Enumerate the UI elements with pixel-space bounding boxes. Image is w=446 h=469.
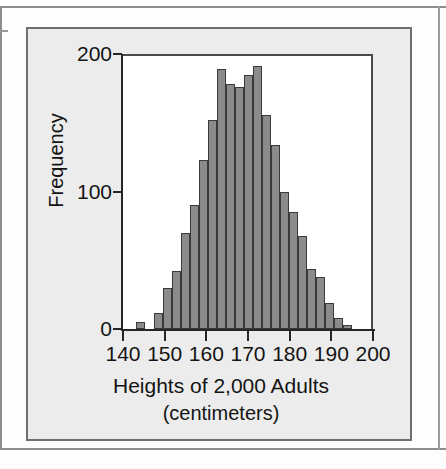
- page-rule-bottom: [0, 448, 446, 450]
- x-axis-tick: [289, 331, 291, 341]
- page-rule-left: [0, 6, 2, 450]
- x-axis-tick-label: 160: [183, 342, 229, 366]
- histogram-bar: [172, 271, 181, 329]
- histogram-bar: [334, 318, 343, 329]
- histogram-bar: [190, 205, 199, 329]
- y-axis-tick-label: 200: [58, 43, 112, 64]
- x-axis-units: (centimeters): [28, 402, 414, 425]
- x-axis-tick-label: 140: [100, 342, 146, 366]
- x-axis-tick-label: 170: [225, 342, 271, 366]
- histogram-bars: [123, 54, 373, 329]
- page-rule-right: [438, 6, 440, 450]
- x-axis-tick: [122, 331, 124, 341]
- page-rule-left-stub: [0, 30, 8, 32]
- x-axis-tick: [247, 331, 249, 341]
- histogram-bar: [289, 212, 298, 329]
- y-axis-tick: [113, 191, 122, 193]
- y-axis-title: Frequency: [45, 71, 68, 251]
- histogram-bar: [307, 269, 316, 330]
- y-axis-tick-label: 0: [58, 318, 112, 339]
- histogram-bar: [163, 288, 172, 329]
- histogram-bar: [262, 115, 271, 330]
- y-axis-tick: [113, 328, 122, 330]
- histogram-bar: [343, 325, 352, 329]
- page-frame: 0100200 Frequency 140150160170180190200 …: [0, 0, 446, 469]
- x-axis-tick: [164, 331, 166, 341]
- y-axis-tick: [113, 53, 122, 55]
- page-rule-top: [0, 6, 446, 8]
- histogram-bar: [136, 322, 145, 329]
- x-axis-tick: [372, 331, 374, 341]
- histogram-bar: [298, 236, 307, 330]
- histogram-bar: [217, 69, 226, 329]
- histogram-bar: [199, 160, 208, 329]
- histogram-bar: [244, 75, 253, 329]
- histogram-bar: [226, 84, 235, 329]
- histogram-bar: [271, 145, 280, 329]
- x-axis-tick: [205, 331, 207, 341]
- histogram-bar: [316, 277, 325, 329]
- histogram-bar: [280, 192, 289, 330]
- histogram-bar: [235, 87, 244, 329]
- histogram-bar: [181, 233, 190, 329]
- x-axis-tick-label: 150: [142, 342, 188, 366]
- x-axis-tick-label: 180: [267, 342, 313, 366]
- histogram-bar: [154, 313, 163, 330]
- histogram-bar: [208, 120, 217, 329]
- x-axis-tick-label: 200: [350, 342, 396, 366]
- x-axis-tick: [330, 331, 332, 341]
- x-axis-title: Heights of 2,000 Adults: [28, 374, 414, 398]
- figure-card: 0100200 Frequency 140150160170180190200 …: [26, 27, 412, 441]
- histogram-bar: [325, 303, 334, 329]
- x-axis-caption-block: Heights of 2,000 Adults (centimeters): [28, 374, 414, 425]
- histogram-bar: [253, 66, 262, 329]
- x-axis-tick-label: 190: [308, 342, 354, 366]
